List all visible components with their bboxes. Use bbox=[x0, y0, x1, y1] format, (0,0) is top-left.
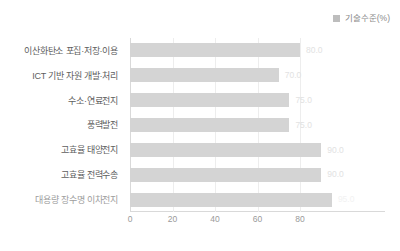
category-label: 고효율 전력수송 bbox=[0, 162, 124, 187]
bar bbox=[130, 93, 289, 107]
bar-value-label: 75.0 bbox=[295, 121, 312, 130]
bar-rows: 80.0 70.0 75.0 75.0 90.0 90.0 bbox=[130, 38, 385, 212]
bar-chart: 기술수준(%) 이산화탄소 포집·저장·이용 ICT 기반 자원 개발·처리 수… bbox=[0, 0, 400, 251]
plot-area: 80.0 70.0 75.0 75.0 90.0 90.0 bbox=[130, 38, 385, 212]
bar bbox=[130, 168, 321, 182]
x-tick-label: 20 bbox=[168, 215, 177, 224]
chart-legend: 기술수준(%) bbox=[333, 14, 390, 23]
category-label: 이산화탄소 포집·저장·이용 bbox=[0, 38, 124, 63]
bar-row: 70.0 bbox=[130, 63, 301, 88]
bar-row: 75.0 bbox=[130, 113, 312, 138]
legend-swatch-icon bbox=[333, 15, 340, 22]
legend-label: 기술수준(%) bbox=[345, 14, 390, 23]
bar bbox=[130, 43, 300, 57]
bar-row: 75.0 bbox=[130, 88, 312, 113]
x-axis-tick-labels: 0 20 40 60 80 bbox=[130, 215, 385, 231]
bar-value-label: 75.0 bbox=[295, 96, 312, 105]
bar-value-label: 70.0 bbox=[285, 71, 302, 80]
category-label: 고효율 태양전지 bbox=[0, 137, 124, 162]
x-tick-label: 80 bbox=[295, 215, 304, 224]
bar bbox=[130, 143, 321, 157]
bar-value-label: 95.0 bbox=[338, 195, 355, 204]
bar-value-label: 90.0 bbox=[327, 170, 344, 179]
bar-row: 95.0 bbox=[130, 187, 354, 212]
bar bbox=[130, 193, 332, 207]
bar-value-label: 90.0 bbox=[327, 146, 344, 155]
bar-row: 80.0 bbox=[130, 38, 323, 63]
category-label: ICT 기반 자원 개발·처리 bbox=[0, 63, 124, 88]
category-label: 대용량 장수명 이차전지 bbox=[0, 187, 124, 212]
bar-row: 90.0 bbox=[130, 137, 344, 162]
x-tick-label: 40 bbox=[210, 215, 219, 224]
bar bbox=[130, 68, 279, 82]
bar-row: 90.0 bbox=[130, 162, 344, 187]
category-axis-labels: 이산화탄소 포집·저장·이용 ICT 기반 자원 개발·처리 수소·연료전지 풍… bbox=[0, 38, 124, 212]
x-tick-label: 0 bbox=[128, 215, 133, 224]
category-label: 풍력발전 bbox=[0, 113, 124, 138]
category-label: 수소·연료전지 bbox=[0, 88, 124, 113]
x-tick-label: 60 bbox=[253, 215, 262, 224]
bar-value-label: 80.0 bbox=[306, 46, 323, 55]
bar bbox=[130, 118, 289, 132]
